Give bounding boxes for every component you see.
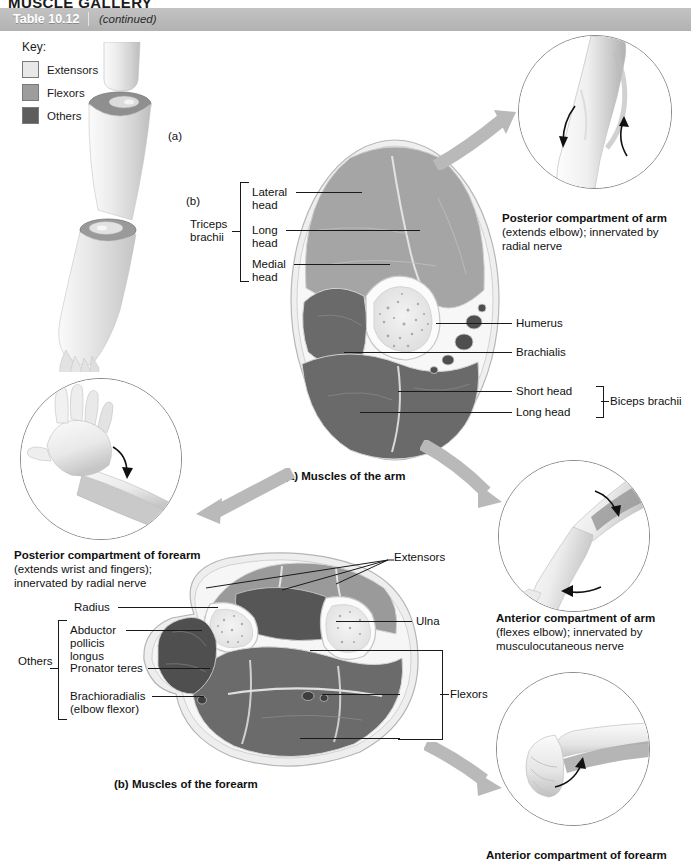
brachialis-label: Brachialis	[516, 346, 566, 359]
triceps-brachii-label: Triceps brachii	[190, 218, 227, 244]
inset-posterior-forearm	[20, 378, 182, 540]
table-header-divider	[88, 12, 89, 26]
humerus-leader	[436, 323, 512, 324]
arrow-to-anterior-forearm	[424, 742, 510, 798]
others-bracket-tick	[50, 668, 59, 669]
arrow-to-anterior-arm	[420, 440, 510, 510]
long-head-biceps-label: Long head	[516, 406, 570, 419]
flexors-leader-3	[300, 738, 400, 739]
brachioradialis-label: Brachioradialis (elbow flexor)	[70, 690, 145, 716]
orientation-level-b-label: (b)	[186, 195, 200, 208]
inset-anterior-arm-detail: (flexes elbow); innervated by musculocut…	[496, 626, 642, 653]
flexors-leader-1	[310, 650, 400, 651]
brachialis-leader	[344, 352, 512, 353]
short-head-leader	[398, 391, 512, 392]
long-head-label: Long head	[252, 224, 278, 250]
inset-posterior-forearm-title: Posterior compartment of forearm	[14, 549, 201, 563]
pronator-teres-leader	[148, 668, 210, 669]
key-swatch-others	[22, 107, 39, 124]
forearm-figure-caption: (b) Muscles of the forearm	[114, 778, 258, 790]
flexors-label: Flexors	[450, 688, 488, 701]
radius-label: Radius	[74, 601, 110, 614]
medial-head-leader	[294, 264, 390, 265]
triceps-bracket	[240, 182, 249, 282]
extensors-leader-group	[196, 556, 396, 592]
flexors-leader-2	[322, 694, 400, 695]
lateral-head-leader	[296, 192, 362, 193]
key-swatch-extensors	[22, 61, 39, 78]
long-head-biceps-leader	[360, 412, 512, 413]
medial-head-label: Medial head	[252, 258, 286, 284]
others-label: Others	[18, 655, 53, 668]
humerus-label: Humerus	[516, 317, 563, 330]
ulna-leader	[336, 621, 412, 622]
inset-anterior-forearm	[496, 672, 650, 826]
long-head-leader	[286, 230, 420, 231]
table-continued-label: (continued)	[99, 13, 157, 25]
key-swatch-flexors	[22, 84, 39, 101]
radius-leader	[118, 607, 218, 608]
brachioradialis-leader	[152, 696, 204, 697]
short-head-label: Short head	[516, 385, 572, 398]
flexors-bracket-tick	[440, 694, 449, 695]
arrow-to-posterior-arm	[432, 108, 522, 170]
biceps-bracket	[596, 386, 604, 418]
arm-figure-caption: (a) Muscles of the arm	[284, 470, 405, 482]
abductor-pollicis-longus-leader	[126, 630, 202, 631]
inset-posterior-forearm-detail: (extends wrist and fingers); innervated …	[14, 563, 152, 590]
ulna-label: Ulna	[416, 615, 440, 628]
inset-posterior-arm	[518, 35, 672, 189]
biceps-bracket-tick	[601, 401, 609, 402]
arrow-to-posterior-forearm	[186, 468, 296, 528]
inset-posterior-arm-title: Posterior compartment of arm	[502, 212, 667, 226]
extensors-label: Extensors	[394, 551, 445, 564]
arm-cross-section	[288, 138, 503, 463]
biceps-brachii-label: Biceps brachii	[610, 395, 682, 408]
others-bracket	[58, 620, 67, 720]
orientation-arm-illustration	[58, 42, 188, 372]
table-number: Table 10.12	[13, 12, 79, 26]
orientation-level-a-label: (a)	[168, 130, 182, 143]
inset-anterior-arm-title: Anterior compartment of arm	[496, 612, 655, 626]
inset-posterior-arm-detail: (extends elbow); innervated by radial ne…	[502, 226, 659, 253]
inset-anterior-forearm-title: Anterior compartment of forearm	[486, 849, 667, 861]
triceps-bracket-tick	[232, 231, 241, 232]
abductor-pollicis-longus-label: Abductor pollicis longus	[70, 624, 116, 663]
lateral-head-label: Lateral head	[252, 186, 287, 212]
inset-anterior-arm	[498, 460, 650, 612]
pronator-teres-label: Pronator teres	[70, 662, 143, 675]
flexors-bracket	[398, 650, 443, 740]
